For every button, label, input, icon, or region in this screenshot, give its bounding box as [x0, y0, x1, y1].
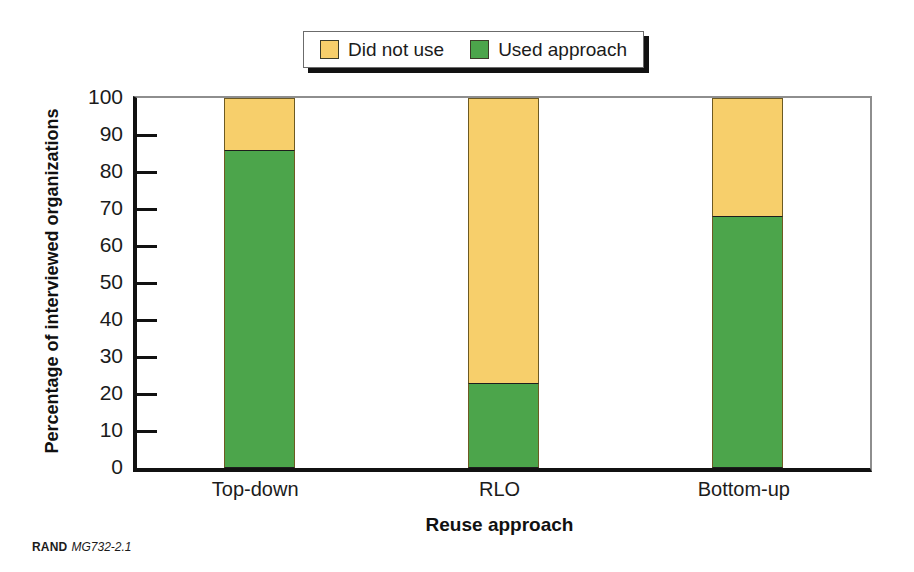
y-axis-tick-mark: [137, 208, 157, 211]
legend-label: Did not use: [348, 40, 444, 59]
bar-segment-used-approach: [224, 150, 295, 468]
bar-segment-did-not-use: [224, 98, 295, 150]
chart-plot-frame: 0102030405060708090100: [133, 96, 872, 472]
y-axis-tick-mark: [137, 171, 157, 174]
y-axis-tick-label: 30: [100, 343, 123, 369]
y-axis-tick-label: 10: [100, 417, 123, 443]
y-axis-tick-label: 50: [100, 269, 123, 295]
y-axis-tick-mark: [137, 282, 157, 285]
y-axis-tick-mark: [137, 393, 157, 396]
bar-column: [468, 98, 539, 468]
bar-segment-did-not-use: [712, 98, 783, 216]
y-axis-tick-label: 20: [100, 380, 123, 406]
bar-segment-used-approach: [712, 216, 783, 468]
y-axis-tick-label: 40: [100, 306, 123, 332]
footer-code: MG732-2.1: [71, 540, 131, 554]
bar-segment-did-not-use: [468, 98, 539, 383]
x-axis-tick-label: Bottom-up: [634, 478, 854, 501]
x-axis-tick-label: Top-down: [145, 478, 365, 501]
y-axis-tick-mark: [137, 356, 157, 359]
y-axis-tick-label: 90: [100, 121, 123, 147]
y-axis-tick-mark: [137, 430, 157, 433]
chart-plot-area: 0102030405060708090100: [137, 98, 870, 468]
y-axis-tick-label: 70: [100, 195, 123, 221]
bar-column: [224, 98, 295, 468]
legend-item-did-not-use: Did not use: [320, 40, 444, 59]
legend-item-used-approach: Used approach: [470, 40, 627, 59]
bar-segment-used-approach: [468, 383, 539, 468]
y-axis-tick-mark: [137, 319, 157, 322]
y-axis-tick-label: 100: [88, 84, 123, 110]
square-swatch-icon: [320, 40, 339, 59]
y-axis-tick-label: 0: [111, 454, 123, 480]
chart-legend: Did not use Used approach: [303, 31, 644, 68]
x-axis-tick-label: RLO: [390, 478, 610, 501]
y-axis-tick-label: 80: [100, 158, 123, 184]
y-axis-tick-mark: [137, 134, 157, 137]
square-swatch-icon: [470, 40, 489, 59]
figure-source-note: RANDMG732-2.1: [32, 540, 132, 554]
bar-column: [712, 98, 783, 468]
x-axis-title: Reuse approach: [133, 514, 866, 536]
legend-label: Used approach: [498, 40, 627, 59]
y-axis-tick-mark: [137, 245, 157, 248]
y-axis-tick-label: 60: [100, 232, 123, 258]
footer-brand: RAND: [32, 540, 67, 554]
y-axis-title: Percentage of interviewed organizations: [26, 96, 78, 466]
